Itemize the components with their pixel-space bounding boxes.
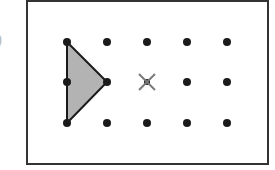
grid-dot <box>103 119 111 127</box>
grid-dot <box>63 38 71 46</box>
grid-dot <box>223 78 231 86</box>
grid-dot <box>143 119 151 127</box>
grid-dot <box>223 38 231 46</box>
x-mark-icon <box>139 74 155 90</box>
grid-dot <box>63 119 71 127</box>
grid-dot <box>183 119 191 127</box>
grid-dot <box>103 78 111 86</box>
grid-dot <box>223 119 231 127</box>
shaded-triangle <box>67 42 107 123</box>
grid-dot <box>103 38 111 46</box>
dot-grid-diagram <box>0 0 275 170</box>
grid-dot <box>63 78 71 86</box>
grid-dot <box>183 78 191 86</box>
grid-dot <box>143 38 151 46</box>
grid-dot <box>183 38 191 46</box>
